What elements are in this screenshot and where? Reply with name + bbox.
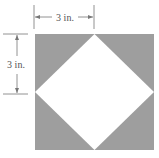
left-dimension: 3 in. bbox=[3, 34, 28, 94]
top-dimension-label: 3 in. bbox=[56, 12, 74, 23]
top-dimension: 3 in. bbox=[34, 5, 94, 29]
left-dimension-label: 3 in. bbox=[7, 59, 25, 70]
quilt-block-diagram: 3 in. 3 in. bbox=[0, 0, 159, 158]
